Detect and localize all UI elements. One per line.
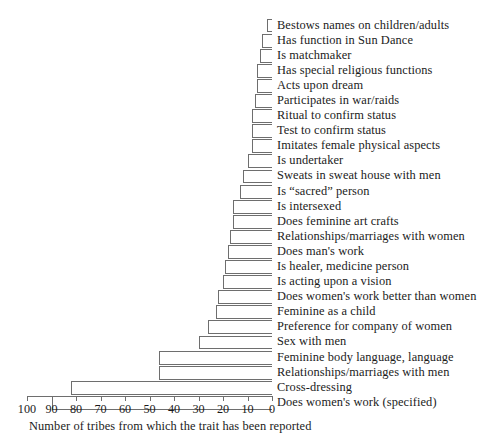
bar [159, 351, 272, 365]
x-tick [174, 396, 175, 401]
bar-label: Has function in Sun Dance [277, 33, 413, 48]
bar-label: Does feminine art crafts [277, 214, 399, 229]
bar-label: Is healer, medicine person [277, 259, 409, 274]
bar-label: Is acting upon a vision [277, 274, 392, 289]
bar-row: Acts upon dream [0, 78, 504, 93]
bar-label: Does man's work [277, 244, 364, 259]
bar-row: Relationships/marriages with men [0, 365, 504, 380]
bar-label: Is intersexed [277, 199, 341, 214]
bar-label: Bestows names on children/adults [277, 18, 449, 33]
bar-row: Is intersexed [0, 199, 504, 214]
bar [233, 215, 272, 229]
x-tick [199, 396, 200, 401]
horizontal-bar-chart: Bestows names on children/adultsHas func… [0, 0, 504, 445]
bar-label: Acts upon dream [277, 78, 363, 93]
bar-row: Is acting upon a vision [0, 275, 504, 290]
x-tick [76, 396, 77, 401]
bar [218, 290, 272, 304]
bar [257, 79, 272, 93]
bar [257, 64, 272, 78]
bar [260, 49, 272, 63]
bar-label: Is undertaker [277, 153, 343, 168]
x-axis-caption: Number of tribes from which the trait ha… [29, 419, 311, 434]
x-tick [248, 396, 249, 401]
bar [262, 34, 272, 48]
bar-row: Has function in Sun Dance [0, 33, 504, 48]
bar-label: Relationships/marriages with women [277, 229, 465, 244]
bar [228, 245, 272, 259]
bar-row: Does feminine art crafts [0, 214, 504, 229]
x-tick [272, 396, 273, 401]
bar-label: Feminine body language, language [277, 350, 454, 365]
bar-row: Ritual to confirm status [0, 109, 504, 124]
x-tick [150, 396, 151, 401]
bar-label: Is matchmaker [277, 48, 352, 63]
bar-row: Does women's work better than women [0, 290, 504, 305]
x-tick [27, 396, 28, 401]
bar [255, 94, 272, 108]
bar [248, 154, 273, 168]
bar-row: Relationships/marriages with women [0, 229, 504, 244]
bar-label: Is “sacred” person [277, 184, 370, 199]
x-tick-label: 0 [257, 402, 287, 416]
bar-label: Cross-dressing [277, 380, 352, 395]
bar-label: Participates in war/raids [277, 93, 399, 108]
bar-row: Is healer, medicine person [0, 260, 504, 275]
bar [267, 19, 272, 33]
bar-row: Has special religious functions [0, 63, 504, 78]
bar-rows: Bestows names on children/adultsHas func… [0, 18, 504, 410]
bar-label: Imitates female physical aspects [277, 138, 440, 153]
bar [223, 275, 272, 289]
bar-row: Is undertaker [0, 154, 504, 169]
bar-label: Sweats in sweat house with men [277, 168, 441, 183]
bar [159, 366, 272, 380]
bar-row: Feminine as a child [0, 305, 504, 320]
bar [71, 381, 272, 395]
bar-row: Is “sacred” person [0, 184, 504, 199]
bar-row: Does man's work [0, 244, 504, 259]
bar-row: Sweats in sweat house with men [0, 169, 504, 184]
bar [230, 230, 272, 244]
bar-label: Test to confirm status [277, 123, 386, 138]
bar-row: Preference for company of women [0, 320, 504, 335]
bar-row: Cross-dressing [0, 380, 504, 395]
bar [240, 185, 272, 199]
bar-row: Is matchmaker [0, 48, 504, 63]
bar-row: Test to confirm status [0, 124, 504, 139]
bar-label: Has special religious functions [277, 63, 433, 78]
x-tick [52, 396, 53, 401]
bar [252, 109, 272, 123]
bar-row: Feminine body language, language [0, 350, 504, 365]
bar-label: Does women's work better than women [277, 289, 476, 304]
bar [199, 336, 273, 350]
bar-label: Relationships/marriages with men [277, 365, 450, 380]
bar [252, 124, 272, 138]
bar-row: Participates in war/raids [0, 93, 504, 108]
bar [208, 320, 272, 334]
bar [225, 260, 272, 274]
bar [252, 139, 272, 153]
bar [233, 200, 272, 214]
bar-row: Sex with men [0, 335, 504, 350]
bar-label: Sex with men [277, 334, 346, 349]
bar-label: Feminine as a child [277, 304, 376, 319]
bar [243, 170, 272, 184]
bar-label: Ritual to confirm status [277, 108, 396, 123]
bar-label: Does women's work (specified) [277, 395, 437, 410]
bar-row: Bestows names on children/adults [0, 18, 504, 33]
x-tick [101, 396, 102, 401]
x-tick [223, 396, 224, 401]
bar [216, 305, 272, 319]
x-tick [125, 396, 126, 401]
bar-row: Imitates female physical aspects [0, 139, 504, 154]
bar-label: Preference for company of women [277, 319, 452, 334]
